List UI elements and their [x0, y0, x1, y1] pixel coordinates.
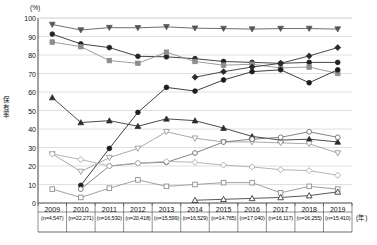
x-axis-label: 2016(n=17,040) [238, 205, 267, 222]
x-axis-label: 2013(n=15,599) [152, 205, 181, 222]
data-point-open-diamond [221, 162, 227, 168]
x-axis-label: 2017(n=16,117) [266, 205, 295, 222]
data-point-filled-square [107, 58, 112, 63]
data-point-filled-circle [50, 32, 55, 37]
data-point-open-down-triangle [106, 155, 112, 160]
x-axis-year: 2019 [323, 205, 352, 214]
data-point-open-square [164, 184, 169, 189]
x-axis-year: 2018 [295, 205, 324, 214]
data-point-filled-circle [250, 69, 255, 74]
data-point-open-square [79, 195, 84, 200]
y-axis-tick: 50 [12, 107, 36, 114]
x-axis-year: 2015 [209, 205, 238, 214]
x-axis-sample-size: (n=16,255) [295, 214, 324, 222]
x-axis-label: 2009(n=4,547) [38, 205, 67, 222]
data-point-open-circle [335, 135, 340, 140]
data-point-open-circle [78, 187, 83, 192]
data-point-open-square [136, 178, 141, 183]
x-axis-sample-size: (n=22,271) [67, 214, 96, 222]
x-axis-sample-size: (n=16,529) [181, 214, 210, 222]
data-point-filled-circle [164, 54, 169, 59]
data-point-filled-circle [107, 146, 112, 151]
data-point-open-square [193, 182, 198, 187]
x-axis-label: 2012(n=20,418) [124, 205, 153, 222]
data-point-filled-up-triangle [49, 95, 55, 100]
data-point-filled-circle [335, 60, 340, 65]
data-point-open-circle [278, 135, 283, 140]
data-point-open-square [250, 180, 255, 185]
y-axis-tick: 100 [12, 15, 36, 22]
y-axis-tick: 30 [12, 144, 36, 151]
x-axis-label: 2019(n=15,410) [323, 205, 352, 222]
data-point-filled-up-triangle [164, 116, 170, 121]
series-open-circle [78, 129, 340, 191]
y-axis-tick: 90 [12, 33, 36, 40]
x-axis-sample-size: (n=14,765) [209, 214, 238, 222]
x-axis-label: 2018(n=16,255) [295, 205, 324, 222]
data-point-open-square [50, 187, 55, 192]
data-point-filled-diamond [192, 74, 198, 80]
data-point-open-circle [250, 137, 255, 142]
data-point-filled-square [79, 44, 84, 49]
data-point-open-down-triangle [78, 169, 84, 174]
x-axis-label: 2015(n=14,765) [209, 205, 238, 222]
data-point-filled-square [136, 61, 141, 66]
data-point-filled-circle [307, 60, 312, 65]
x-axis-sample-size: (n=16,530) [95, 214, 124, 222]
x-axis-label: 2014(n=16,529) [181, 205, 210, 222]
y-axis-tick: 80 [12, 52, 36, 59]
data-point-filled-square [307, 65, 312, 70]
data-point-filled-down-triangle [78, 28, 84, 33]
x-axis-label: 2010(n=22,271) [67, 205, 96, 222]
x-axis-year: 2013 [152, 205, 181, 214]
data-point-filled-circle [164, 85, 169, 90]
data-point-filled-circle [107, 45, 112, 50]
data-point-open-diamond [278, 167, 284, 173]
x-axis-label: 2011(n=16,530) [95, 205, 124, 222]
data-point-open-diamond [306, 168, 312, 174]
data-point-open-square [107, 186, 112, 191]
x-axis-year: 2011 [95, 205, 124, 214]
data-point-open-diamond [335, 172, 341, 178]
x-axis-sample-size: (n=17,040) [238, 214, 267, 222]
data-point-filled-circle [307, 80, 312, 85]
data-point-filled-circle [221, 78, 226, 83]
y-axis-tick-group: 0102030405060708090100 [8, 0, 36, 245]
data-point-filled-square [164, 50, 169, 55]
data-point-open-diamond [249, 164, 255, 170]
data-point-open-square [307, 184, 312, 189]
x-axis-year: 2010 [67, 205, 96, 214]
x-axis-year: 2016 [238, 205, 267, 214]
series-line [195, 192, 338, 200]
data-point-open-circle [193, 151, 198, 156]
y-axis-tick: 40 [12, 126, 36, 133]
data-point-open-square [221, 180, 226, 185]
series-open-up-triangle [192, 189, 341, 203]
data-point-filled-circle [193, 89, 198, 94]
y-axis-tick: 0 [12, 200, 36, 207]
x-axis-unit-label: (年) [356, 212, 367, 222]
data-point-filled-circle [335, 67, 340, 72]
x-axis-sample-size: (n=4,547) [38, 214, 67, 222]
data-point-open-diamond [192, 159, 198, 165]
data-point-filled-circle [278, 67, 283, 72]
x-axis-sample-size: (n=15,599) [152, 214, 181, 222]
data-point-open-diamond [135, 160, 141, 166]
series-filled-down-triangle [49, 22, 340, 33]
data-point-filled-square [50, 40, 55, 45]
data-point-open-circle [221, 140, 226, 145]
data-point-filled-square [193, 59, 198, 64]
y-axis-tick: 60 [12, 89, 36, 96]
y-axis-tick: 20 [12, 163, 36, 170]
x-axis-sample-size: (n=16,117) [266, 214, 295, 222]
x-axis-year: 2014 [181, 205, 210, 214]
data-point-filled-diamond [335, 45, 341, 51]
data-point-filled-square [221, 63, 226, 68]
x-axis-sample-size: (n=20,418) [124, 214, 153, 222]
data-point-open-down-triangle [335, 151, 341, 156]
x-axis-sample-size: (n=15,410) [323, 214, 352, 222]
data-point-filled-diamond [306, 53, 312, 59]
y-axis-tick: 70 [12, 70, 36, 77]
chart-container: (%) (年) 保有率 0102030405060708090100 2009(… [0, 0, 377, 245]
x-axis-year: 2012 [124, 205, 153, 214]
